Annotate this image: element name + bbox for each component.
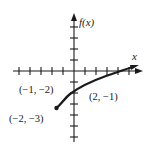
point-label-neg1-neg2: (−1, −2) — [19, 84, 54, 96]
function-graph-figure: f(x) x (−1, −2) (−2, −3) (2, −1) — [0, 0, 148, 147]
function-curve-group — [54, 65, 139, 110]
x-axis-arrowhead — [135, 68, 143, 74]
point-label-neg2-neg3: (−2, −3) — [9, 113, 44, 125]
curve-endpoint-dot — [54, 106, 58, 110]
graph-canvas: f(x) x (−1, −2) (−2, −3) (2, −1) — [0, 0, 148, 147]
x-axis-label: x — [131, 50, 137, 62]
point-label-2-neg1: (2, −1) — [89, 91, 118, 103]
y-axis-arrowhead — [71, 13, 77, 21]
y-axis-label: f(x) — [79, 16, 95, 29]
y-axis-group — [70, 13, 78, 142]
